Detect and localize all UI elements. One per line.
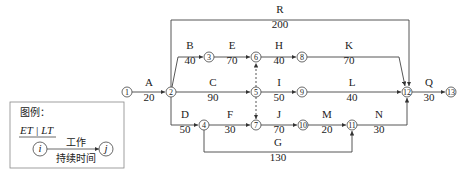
node-9: 9 [297, 87, 307, 97]
activity-D: D50 [180, 108, 192, 135]
svg-text:4: 4 [202, 121, 206, 130]
legend-work-label: 工作 [66, 137, 86, 148]
activity-R: R200 [272, 3, 289, 30]
activity-Q: Q30 [424, 76, 436, 103]
activity-name: L [349, 76, 356, 88]
svg-text:7: 7 [254, 121, 258, 130]
activity-name: D [181, 108, 189, 120]
activity-name: R [276, 3, 284, 15]
activity-name: B [186, 39, 193, 51]
svg-text:8: 8 [300, 53, 304, 62]
node-7: 7 [251, 120, 261, 130]
activity-A: A20 [144, 76, 156, 103]
activity-name: K [345, 39, 353, 51]
activity-duration: 20 [322, 123, 334, 135]
node-3: 3 [204, 52, 214, 62]
svg-text:10: 10 [299, 121, 307, 130]
activity-duration: 50 [274, 91, 286, 103]
activity-K: K70 [344, 39, 356, 66]
activity-L: L40 [347, 76, 359, 103]
svg-text:i: i [38, 142, 41, 154]
activity-name: E [229, 39, 236, 51]
activity-N: N30 [374, 108, 386, 135]
node-4: 4 [199, 120, 209, 130]
activity-name: I [277, 76, 281, 88]
activity-duration: 200 [272, 18, 289, 30]
activity-E: E70 [227, 39, 239, 66]
activity-J: J70 [274, 108, 286, 135]
activity-duration: 130 [270, 151, 287, 163]
activity-duration: 40 [274, 54, 286, 66]
node-6: 6 [251, 52, 261, 62]
activity-B: B40 [185, 39, 197, 66]
node-13: 13 [446, 87, 456, 97]
activity-duration: 30 [374, 123, 386, 135]
svg-text:6: 6 [254, 53, 258, 62]
activity-C: C90 [208, 76, 220, 103]
svg-text:3: 3 [207, 53, 211, 62]
svg-text:5: 5 [254, 88, 258, 97]
activity-duration: 30 [424, 91, 436, 103]
svg-text:1: 1 [125, 88, 129, 97]
activity-name: H [275, 39, 283, 51]
node-10: 10 [298, 120, 308, 130]
svg-text:11: 11 [348, 121, 356, 130]
arrow-K [307, 57, 405, 86]
node-8: 8 [297, 52, 307, 62]
activity-duration: 70 [227, 54, 239, 66]
activity-H: H40 [274, 39, 286, 66]
svg-text:2: 2 [169, 88, 173, 97]
activity-duration: 40 [347, 91, 359, 103]
activity-name: J [277, 108, 282, 120]
node-5: 5 [251, 87, 261, 97]
legend: 图例： ET | LT i j 工作 持续时间 [10, 102, 124, 168]
activity-name: N [375, 108, 383, 120]
legend-duration-label: 持续时间 [56, 152, 96, 164]
activity-name: Q [425, 76, 433, 88]
activity-name: F [227, 108, 233, 120]
activity-name: M [322, 108, 332, 120]
legend-title: 图例： [20, 106, 50, 118]
activity-duration: 90 [208, 91, 220, 103]
activity-M: M20 [322, 108, 334, 135]
legend-header: ET | LT [19, 124, 54, 136]
activity-duration: 40 [185, 54, 197, 66]
node-11: 11 [347, 120, 357, 130]
activity-I: I50 [274, 76, 286, 103]
activity-name: A [145, 76, 153, 88]
activity-duration: 30 [225, 123, 237, 135]
activity-F: F30 [225, 108, 237, 135]
activity-name: G [274, 136, 282, 148]
network-diagram: 12345678910111213 A20B40C90D50E70F30G130… [0, 0, 470, 177]
node-2: 2 [166, 87, 176, 97]
svg-text:9: 9 [300, 88, 304, 97]
activity-name: C [209, 76, 216, 88]
activity-G: G130 [270, 136, 287, 163]
activity-duration: 50 [180, 123, 192, 135]
node-1: 1 [122, 87, 132, 97]
activity-duration: 70 [274, 123, 286, 135]
activity-duration: 70 [344, 54, 356, 66]
svg-text:13: 13 [447, 88, 455, 97]
svg-text:12: 12 [403, 88, 411, 97]
activity-duration: 20 [144, 91, 156, 103]
node-12: 12 [402, 87, 412, 97]
